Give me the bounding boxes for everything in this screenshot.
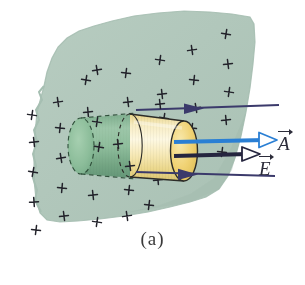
cylinder-behind-left-cap: [68, 118, 94, 174]
field-vector-label: E: [259, 153, 274, 178]
vector-arrow-accent-e: [259, 153, 274, 160]
area-vector-label-text: A: [278, 133, 290, 154]
field-vector-label-text: E: [259, 158, 271, 179]
vector-arrow-accent-a: [278, 128, 293, 135]
figure-container: A E (a): [0, 0, 305, 285]
area-vector-label: A: [278, 128, 293, 153]
figure-caption: (a): [0, 228, 305, 250]
